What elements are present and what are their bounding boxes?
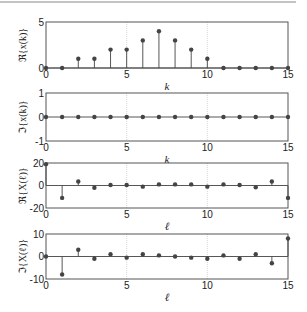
x-tick-label: 0 xyxy=(43,142,49,153)
stem-marker xyxy=(141,252,145,256)
stem-marker xyxy=(221,115,225,119)
stem-marker xyxy=(108,183,112,187)
x-tick-label: 0 xyxy=(43,69,49,80)
stem-marker xyxy=(254,66,258,70)
y-axis-label: ℑ{X(ℓ)} xyxy=(17,239,29,274)
y-tick-label: 0 xyxy=(38,112,44,123)
x-tick-label: 10 xyxy=(202,69,214,80)
stem-marker xyxy=(270,179,274,183)
stem-marker xyxy=(92,186,96,190)
x-tick-label: 5 xyxy=(124,69,130,80)
subplot-1: 05101505kℜ{x(k)} xyxy=(17,17,294,93)
stem-marker xyxy=(221,66,225,70)
y-tick-label: 20 xyxy=(33,158,45,169)
stem-marker xyxy=(205,257,209,261)
y-tick-label: 0 xyxy=(38,63,44,74)
stem-marker xyxy=(60,196,64,200)
stem-marker xyxy=(44,162,48,166)
y-tick-label: 0 xyxy=(38,251,44,262)
stem-marker xyxy=(221,182,225,186)
x-tick-label: 5 xyxy=(124,209,130,220)
y-tick-label: 0 xyxy=(38,180,44,191)
stem-marker xyxy=(270,66,274,70)
stem-marker xyxy=(173,182,177,186)
stem-marker xyxy=(189,115,193,119)
stem-marker xyxy=(44,115,48,119)
stem-marker xyxy=(124,47,128,51)
stem-marker xyxy=(286,196,290,200)
x-axis-label: ℓ xyxy=(165,220,170,232)
stem-marker xyxy=(270,115,274,119)
x-axis-label: ℓ xyxy=(165,291,170,303)
stem-marker xyxy=(173,38,177,42)
stem-marker xyxy=(141,115,145,119)
stem-marker xyxy=(60,272,64,276)
x-tick-label: 5 xyxy=(124,280,130,291)
x-tick-label: 10 xyxy=(202,209,214,220)
stem-marker xyxy=(254,115,258,119)
stem-marker xyxy=(254,252,258,256)
stem-marker xyxy=(76,115,80,119)
stem-marker xyxy=(173,115,177,119)
stem-marker xyxy=(205,57,209,61)
stem-marker xyxy=(76,248,80,252)
stem-marker xyxy=(108,47,112,51)
y-tick-label: 1 xyxy=(38,88,44,99)
x-axis-label: k xyxy=(165,80,171,92)
y-axis-label: ℜ{X(ℓ)} xyxy=(17,167,29,203)
stem-marker xyxy=(124,115,128,119)
subplot-2: 051015-101kℑ{x(k)} xyxy=(17,88,294,166)
stem-marker xyxy=(189,47,193,51)
axes-frame xyxy=(46,22,288,68)
stem-marker xyxy=(237,115,241,119)
subplot-4: 051015-10010ℓℑ{X(ℓ)} xyxy=(17,229,294,304)
stem-marker xyxy=(237,183,241,187)
stem-marker xyxy=(157,115,161,119)
stem-marker xyxy=(270,261,274,265)
x-tick-label: 10 xyxy=(202,280,214,291)
subplot-3: 051015-20020ℓℜ{X(ℓ)} xyxy=(17,158,294,233)
stem-marker xyxy=(60,115,64,119)
stem-marker xyxy=(205,115,209,119)
y-axis-label: ℜ{x(k)} xyxy=(17,28,29,62)
x-tick-label: 15 xyxy=(282,142,294,153)
stem-marker xyxy=(157,253,161,257)
y-axis-label: ℑ{x(k)} xyxy=(17,100,29,133)
stem-marker xyxy=(92,57,96,61)
stem-marker xyxy=(286,115,290,119)
stem-marker xyxy=(189,182,193,186)
stem-marker xyxy=(189,255,193,259)
stem-marker xyxy=(254,185,258,189)
stem-marker xyxy=(205,184,209,188)
stem-marker xyxy=(157,182,161,186)
stem-marker xyxy=(173,254,177,258)
stem-marker xyxy=(141,38,145,42)
x-tick-label: 0 xyxy=(43,280,49,291)
stem-marker xyxy=(237,66,241,70)
x-tick-label: 15 xyxy=(282,209,294,220)
stem-marker xyxy=(76,179,80,183)
y-tick-label: 5 xyxy=(38,17,44,28)
stem-marker xyxy=(76,57,80,61)
y-tick-label: 10 xyxy=(33,229,45,240)
stem-marker xyxy=(92,257,96,261)
stem-marker xyxy=(157,29,161,33)
stem-marker xyxy=(237,257,241,261)
y-tick-label: -1 xyxy=(35,136,44,147)
x-tick-label: 10 xyxy=(202,142,214,153)
stem-marker xyxy=(286,236,290,240)
y-tick-label: -10 xyxy=(30,274,45,285)
stem-marker xyxy=(221,253,225,257)
stem-marker xyxy=(44,254,48,258)
x-tick-label: 15 xyxy=(282,280,294,291)
x-tick-label: 0 xyxy=(43,209,49,220)
y-tick-label: -20 xyxy=(30,203,45,214)
stem-marker xyxy=(124,255,128,259)
x-tick-label: 5 xyxy=(124,142,130,153)
stem-marker xyxy=(141,184,145,188)
stem-marker xyxy=(124,183,128,187)
stem-marker xyxy=(108,115,112,119)
x-tick-label: 15 xyxy=(282,69,294,80)
stem-marker xyxy=(60,66,64,70)
stem-marker xyxy=(108,252,112,256)
